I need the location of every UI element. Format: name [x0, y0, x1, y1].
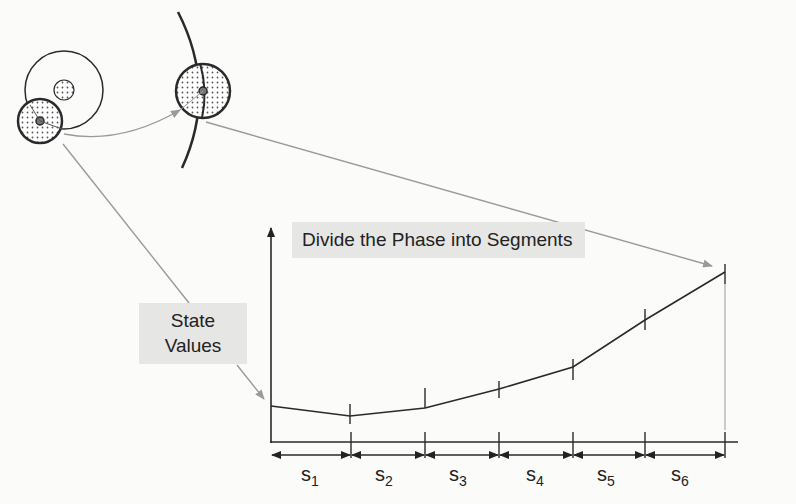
segment-label-4: s4 [515, 463, 555, 489]
segment-label-2: s2 [364, 463, 404, 489]
segment-label-5: s5 [586, 463, 626, 489]
pointer-to-start [237, 365, 264, 399]
state-label-line2: Values [139, 333, 247, 358]
state-values-label-box: State Values [139, 303, 247, 364]
divide-label-box: Divide the Phase into Segments [292, 222, 585, 258]
pointer-to-state-label [63, 144, 189, 303]
segment-label-6: s6 [660, 463, 700, 489]
central-body [54, 80, 74, 100]
orbit-illustration [18, 12, 230, 168]
segment-label-3: s3 [438, 463, 478, 489]
divide-label: Divide the Phase into Segments [302, 229, 572, 251]
segment-label-1: s1 [290, 463, 330, 489]
axis-ticks [351, 432, 725, 458]
transfer-path [64, 110, 180, 137]
state-label-line1: State [139, 308, 247, 333]
state-value-curve [271, 272, 725, 416]
curve-ticks [350, 264, 725, 424]
